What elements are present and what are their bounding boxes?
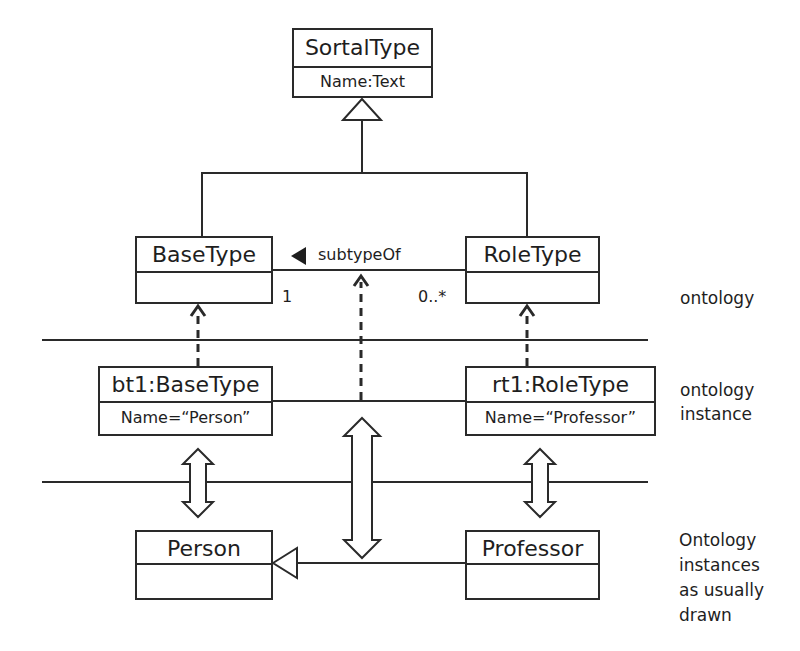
- class-name: SortalType: [294, 30, 431, 66]
- hollow-triangle-icon: [343, 99, 381, 120]
- class-name: BaseType: [137, 238, 271, 272]
- uml-diagram: SortalType Name:Text BaseType RoleType s…: [0, 0, 800, 651]
- class-name: RoleType: [467, 238, 598, 272]
- class-attribute: Name:Text: [294, 67, 431, 97]
- label-line: Ontology: [679, 528, 764, 553]
- instance-name: rt1:RoleType: [467, 368, 654, 402]
- class-role-type[interactable]: RoleType: [465, 236, 600, 304]
- instanceof-arrow-link: [354, 276, 368, 400]
- instance-attribute: Name=“Professor”: [467, 403, 654, 433]
- layer-label-ontology: ontology: [680, 286, 754, 310]
- label-line: instance: [680, 402, 754, 426]
- layer-label-usual-drawing: Ontology instances as usually drawn: [679, 528, 764, 628]
- instance-rt1[interactable]: rt1:RoleType Name=“Professor”: [465, 366, 656, 436]
- label-line: instances: [679, 553, 764, 578]
- class-divider: [467, 271, 598, 273]
- class-base-type[interactable]: BaseType: [135, 236, 273, 304]
- filled-triangle-left-icon: [291, 247, 306, 265]
- instance-bt1[interactable]: bt1:BaseType Name=“Person”: [98, 366, 273, 436]
- label-line: drawn: [679, 603, 764, 628]
- generalization-sortal: [201, 99, 528, 236]
- class-professor[interactable]: Professor: [465, 530, 600, 600]
- class-divider: [467, 563, 598, 565]
- class-divider: [137, 563, 271, 565]
- class-name: Professor: [467, 532, 598, 566]
- class-sortal-type[interactable]: SortalType Name:Text: [292, 28, 433, 98]
- layer-label-ontology-instance: ontology instance: [680, 378, 754, 426]
- hollow-triangle-left-icon: [273, 548, 297, 578]
- instance-name: bt1:BaseType: [100, 368, 271, 402]
- association-label: subtypeOf: [318, 243, 401, 267]
- instanceof-arrow-role: [520, 306, 534, 366]
- class-name: Person: [137, 532, 271, 566]
- class-divider: [137, 271, 271, 273]
- label-line: ontology: [680, 378, 754, 402]
- class-person[interactable]: Person: [135, 530, 273, 600]
- instance-attribute: Name=“Person”: [100, 403, 271, 433]
- double-arrow-icon-middle: [344, 418, 380, 558]
- label-line: as usually: [679, 578, 764, 603]
- multiplicity-role: 0..*: [418, 287, 446, 307]
- instanceof-arrow-base: [191, 306, 205, 366]
- label-line: ontology: [680, 286, 754, 310]
- multiplicity-base: 1: [282, 287, 292, 307]
